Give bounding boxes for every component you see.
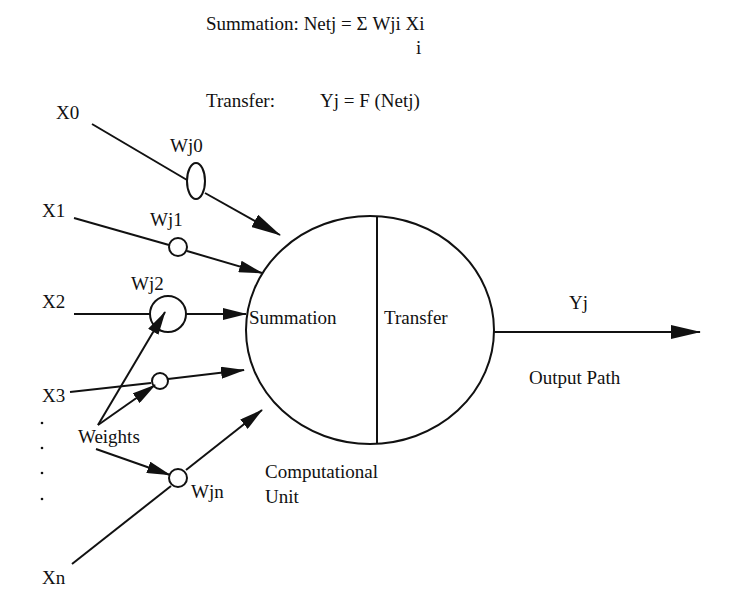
weight-node-wj1: [169, 238, 187, 256]
input-label-xn: Xn: [42, 567, 66, 588]
transfer-label: Transfer:: [206, 90, 275, 111]
input-label-x3: X3: [42, 385, 65, 406]
weights-pointer-wj3: [98, 385, 155, 425]
transfer-equation: Yj = F (Netj): [320, 90, 420, 112]
output-path-caption: Output Path: [529, 367, 621, 388]
summation-equation: Summation: Netj = Σ Wji Xi: [206, 13, 425, 34]
unit-caption-line1: Computational: [265, 461, 378, 482]
transfer-section-label: Transfer: [384, 307, 448, 328]
weights-pointer-wj2: [98, 312, 165, 425]
weight-label-wj0: Wj0: [170, 135, 203, 156]
summation-section-label: Summation: [249, 307, 337, 328]
input-label-x1: X1: [42, 200, 65, 221]
input-label-x2: X2: [42, 291, 65, 312]
weight-label-wjn: Wjn: [191, 481, 224, 502]
input-label-x0: X0: [56, 102, 79, 123]
input-line-x3: [70, 383, 151, 392]
weight-node-wjn: [169, 469, 187, 487]
weight-label-wj1: Wj1: [150, 209, 183, 230]
computational-unit: Summation Transfer: [246, 216, 494, 444]
weight-label-wj2: Wj2: [131, 273, 164, 294]
input-line-xn: [72, 486, 171, 564]
weights-label: Weights: [78, 426, 140, 447]
weighted-line-x3: [168, 370, 244, 379]
weights-pointer-wjn: [96, 449, 170, 475]
unit-caption-line2: Unit: [265, 486, 300, 507]
output-label: Yj: [569, 292, 588, 313]
summation-index: i: [416, 37, 421, 58]
weighted-line-x1: [187, 251, 262, 273]
weight-node-wj0: [187, 163, 205, 199]
weighted-line-xn: [186, 410, 262, 470]
weighted-line-x0: [205, 193, 280, 235]
ellipsis-dots: [41, 422, 44, 501]
neuron-diagram: Summation: Netj = Σ Wji Xi i Transfer: Y…: [0, 0, 730, 613]
